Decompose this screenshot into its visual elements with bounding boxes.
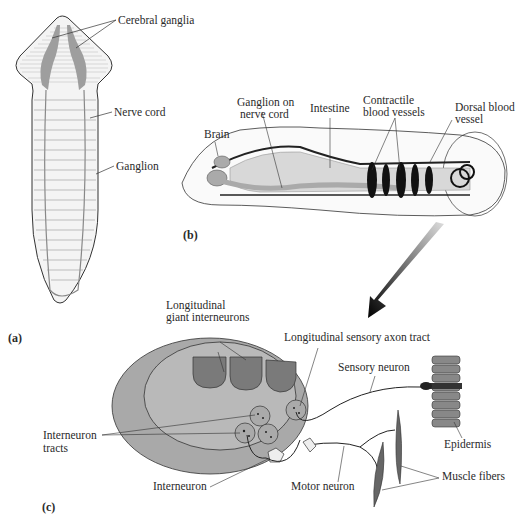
giant-interneuron — [230, 357, 262, 390]
label-intestine: Intestine — [310, 102, 350, 114]
muscle-fiber — [374, 442, 384, 507]
label-epidermis: Epidermis — [444, 438, 491, 450]
label-giant-1: Longitudinal — [166, 299, 225, 311]
label-contractile-2: blood vessels — [363, 106, 425, 118]
label-cerebral-ganglia: Cerebral ganglia — [118, 14, 194, 26]
label-dorsal-1: Dorsal blood — [455, 101, 515, 113]
planarian-body — [16, 16, 116, 303]
label-contractile-1: Contractile — [363, 94, 414, 106]
panel-label-b: (b) — [183, 228, 198, 243]
muscle-fiber — [396, 410, 402, 484]
zoom-arrow — [368, 222, 444, 318]
panel-label-c: (c) — [42, 500, 55, 515]
earthworm-body — [182, 112, 507, 216]
label-sensory-tract: Longitudinal sensory axon tract — [284, 331, 430, 343]
label-interneuron-tracts-2: tracts — [43, 442, 68, 454]
label-muscle-fibers: Muscle fibers — [442, 470, 505, 482]
label-giant-2: giant interneurons — [166, 311, 249, 323]
brain — [214, 156, 230, 168]
label-sensory-neuron: Sensory neuron — [338, 361, 410, 373]
label-motor-neuron: Motor neuron — [291, 480, 355, 492]
epidermis — [432, 356, 460, 427]
sensory-neuron-axon — [296, 387, 432, 421]
label-ganglion-on-nerve-cord-1: Ganglion on — [237, 96, 294, 108]
panel-label-a: (a) — [8, 331, 22, 346]
label-interneuron: Interneuron — [153, 480, 207, 492]
label-brain: Brain — [204, 128, 230, 140]
label-interneuron-tracts-1: Interneuron — [43, 429, 97, 441]
label-dorsal-2: vessel — [455, 113, 483, 125]
label-nerve-cord: Nerve cord — [114, 106, 165, 118]
label-ganglion: Ganglion — [116, 160, 159, 172]
giant-interneuron — [266, 360, 296, 392]
label-ganglion-on-nerve-cord-2: nerve cord — [240, 108, 289, 120]
